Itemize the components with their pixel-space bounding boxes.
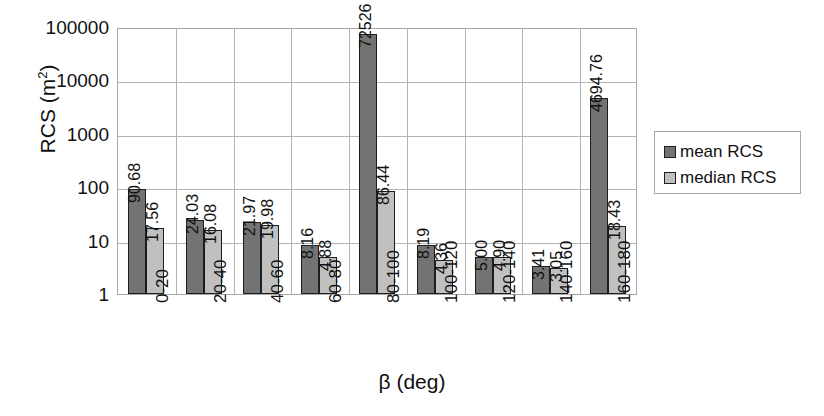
rcs-bar-chart: RCS (m2) 100000100001000100101 90.6817.5… <box>0 0 824 416</box>
bar-value-label-mean-0-20: 90.68 <box>127 163 143 203</box>
bar-value-label-median-160-180: 18.43 <box>607 200 623 240</box>
bar-value-label-mean-40-60: 21.97 <box>242 196 258 236</box>
x-axis-tick-140-160: 140-160 <box>558 241 575 303</box>
x-axis-tick-20-40: 20-40 <box>212 260 229 303</box>
bar-value-label-mean-60-80: 8.16 <box>300 228 316 259</box>
x-axis-tick-80-100: 80-100 <box>385 250 402 303</box>
y-axis-tick-100: 100 <box>9 178 109 197</box>
bar-value-label-mean-160-180: 4694.76 <box>589 54 605 112</box>
bar-value-label-median-20-40: 16.08 <box>203 204 219 244</box>
x-axis-tick-0-20: 0-20 <box>154 269 171 303</box>
x-axis-tick-160-180: 160-180 <box>616 241 633 303</box>
bar-value-label-mean-140-160: 3.41 <box>531 248 547 279</box>
bar-group-40-60: 21.9719.98 <box>234 29 292 294</box>
bar-value-label-median-80-100: 86.44 <box>376 165 392 205</box>
bar-value-label-mean-120-140: 5.00 <box>474 240 490 271</box>
bar-mean-160-180[interactable] <box>590 98 608 294</box>
bar-value-label-mean-20-40: 24.03 <box>185 194 201 234</box>
bar-group-0-20: 90.6817.56 <box>118 29 176 294</box>
x-axis-tick-120-140: 120-140 <box>501 241 518 303</box>
bar-value-label-mean-80-100: 72526 <box>358 4 374 49</box>
legend-item-median-rcs[interactable]: median RCS <box>664 168 776 188</box>
legend-label-median: median RCS <box>680 168 776 188</box>
legend-item-mean-rcs[interactable]: mean RCS <box>664 142 763 162</box>
x-axis-tick-40-60: 40-60 <box>269 260 286 303</box>
bar-value-label-median-40-60: 19.98 <box>260 199 276 239</box>
chart-legend: mean RCS median RCS <box>654 131 801 194</box>
y-axis-tick-100000: 100000 <box>9 18 109 37</box>
legend-label-mean: mean RCS <box>680 142 763 162</box>
y-axis-tick-1: 1 <box>9 285 109 304</box>
x-axis-tick-60-80: 60-80 <box>327 260 344 303</box>
y-axis-tick-1000: 1000 <box>9 125 109 144</box>
x-axis-title: β (deg) <box>0 370 824 394</box>
bar-group-20-40: 24.0316.08 <box>176 29 234 294</box>
bar-group-60-80: 8.164.88 <box>291 29 349 294</box>
y-axis-tick-10000: 10000 <box>9 71 109 90</box>
x-axis-tick-100-120: 100-120 <box>443 241 460 303</box>
legend-swatch-median-icon <box>664 172 676 184</box>
y-axis-tick-10: 10 <box>9 232 109 251</box>
legend-swatch-mean-icon <box>664 146 676 158</box>
bar-value-label-median-0-20: 17.56 <box>145 201 161 241</box>
bar-value-label-mean-100-120: 8.19 <box>416 228 432 259</box>
